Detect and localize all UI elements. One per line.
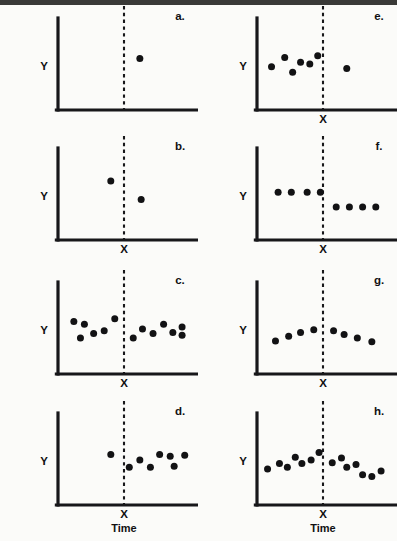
data-point [281,54,288,61]
data-point [150,330,157,337]
data-point [378,467,385,474]
data-point [276,460,283,467]
panel-c: Yc.X [0,268,198,406]
y-axis-label: Y [40,60,48,72]
data-point [292,454,299,461]
time-axis-label: Time [310,522,335,534]
panel-label: d. [175,405,185,417]
x-marker-label: X [319,113,327,125]
panel-f: Yf.X [199,134,397,272]
panel-label: c. [175,274,185,286]
panel-d: Yd.XTime [0,399,198,537]
data-point [160,321,167,328]
data-point [171,463,178,470]
data-point [329,459,336,466]
y-axis-label: Y [239,324,247,336]
y-axis-label: Y [40,324,48,336]
data-point [179,332,186,339]
x-marker-label: X [120,508,128,520]
x-marker-label: X [319,508,327,520]
data-point [264,466,271,473]
data-point [156,451,163,458]
panel-g: Yg.X [199,268,397,406]
data-point [169,329,176,336]
panel-label: g. [374,274,384,286]
data-point [107,178,114,185]
panel-label: e. [374,10,384,22]
data-point [70,318,77,325]
data-point [179,324,186,331]
data-point [333,203,340,210]
data-point [372,203,379,210]
data-point [136,456,143,463]
data-point [343,65,350,72]
x-marker-label: X [120,377,128,389]
x-marker-label: X [120,243,128,255]
data-point [181,452,188,459]
data-point [90,330,97,337]
data-point [354,335,361,342]
data-point [130,335,137,342]
data-point [297,59,304,66]
data-point [304,189,311,196]
y-axis-label: Y [40,190,48,202]
data-point [289,69,296,76]
data-point [306,61,313,68]
data-point [107,451,114,458]
data-point [308,456,315,463]
data-point [272,337,279,344]
y-axis-label: Y [239,190,247,202]
data-point [288,189,295,196]
panel-label: a. [175,10,185,22]
y-axis-label: Y [40,455,48,467]
data-point [359,203,366,210]
data-point [285,333,292,340]
data-point [275,189,282,196]
data-point [284,464,291,471]
data-point [330,327,337,334]
data-point [139,325,146,332]
data-point [101,327,108,334]
data-point [368,338,375,345]
data-point [316,449,323,456]
data-point [126,464,133,471]
data-point [77,335,84,342]
data-point [138,196,145,203]
time-axis-label: Time [111,522,136,534]
data-point [343,464,350,471]
panel-label: b. [175,140,185,152]
panel-a: Ya. [0,4,198,142]
data-point [359,471,366,478]
data-point [297,329,304,336]
data-point [167,453,174,460]
panel-h: Yh.XTime [199,399,397,537]
data-point [338,455,345,462]
data-point [268,63,275,70]
data-point [314,52,321,59]
x-marker-label: X [319,243,327,255]
data-point [310,326,317,333]
figure-panel-grid: Ya.Yb.XYc.XYd.XTimeYe.XYf.XYg.XYh.XTime [0,0,397,541]
data-point [136,55,143,62]
data-point [353,461,360,468]
panel-label: h. [374,405,384,417]
x-marker-label: X [319,377,327,389]
panel-label: f. [375,140,382,152]
data-point [147,464,154,471]
data-point [81,321,88,328]
data-point [317,189,324,196]
panel-e: Ye.X [199,4,397,142]
panel-b: Yb.X [0,134,198,272]
data-point [341,331,348,338]
data-point [298,460,305,467]
data-point [111,315,118,322]
data-point [346,203,353,210]
y-axis-label: Y [239,60,247,72]
y-axis-label: Y [239,455,247,467]
data-point [368,473,375,480]
